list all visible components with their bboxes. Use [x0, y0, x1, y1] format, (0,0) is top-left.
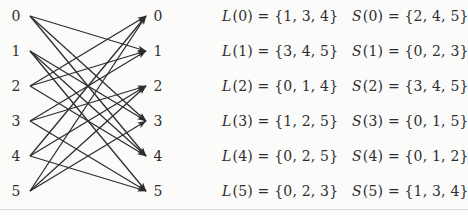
equation-body: (5) = {0, 2, 3}: [233, 183, 339, 199]
L-equation-row-0: L(0) = {1, 3, 4}: [222, 6, 338, 26]
edge-line: [30, 16, 146, 86]
L-equation-row-5: L(5) = {0, 2, 3}: [222, 181, 338, 201]
function-letter: S: [352, 78, 363, 94]
left-node-label-5: 5: [9, 181, 23, 201]
equation-body: (1) = {0, 2, 3}: [363, 43, 468, 59]
equation-body: (4) = {0, 1, 2}: [363, 148, 468, 164]
left-node-label-2: 2: [9, 76, 23, 96]
equation-body: (3) = {0, 1, 5}: [363, 113, 468, 129]
equation-body: (3) = {1, 2, 5}: [233, 113, 339, 129]
equation-body: (2) = {3, 4, 5}: [363, 78, 468, 94]
function-letter: L: [222, 43, 233, 59]
equation-body: (2) = {0, 1, 4}: [233, 78, 339, 94]
L-equation-row-1: L(1) = {3, 4, 5}: [222, 41, 338, 61]
right-node-label-4: 4: [151, 146, 165, 166]
S-equation-row-3: S(3) = {0, 1, 5}: [352, 111, 468, 131]
function-letter: L: [222, 78, 233, 94]
edge-line: [30, 16, 146, 51]
S-equation-row-1: S(1) = {0, 2, 3}: [352, 41, 468, 61]
edge-line: [30, 16, 146, 191]
left-node-label-1: 1: [9, 41, 23, 61]
edge-line: [30, 86, 146, 191]
L-equation-row-2: L(2) = {0, 1, 4}: [222, 76, 338, 96]
right-node-label-0: 0: [151, 6, 165, 26]
L-equation-row-4: L(4) = {0, 2, 5}: [222, 146, 338, 166]
L-equation-row-3: L(3) = {1, 2, 5}: [222, 111, 338, 131]
equation-body: (5) = {1, 3, 4}: [363, 183, 468, 199]
equation-body: (1) = {3, 4, 5}: [233, 43, 339, 59]
function-letter: S: [352, 113, 363, 129]
equation-body: (4) = {0, 2, 5}: [233, 148, 339, 164]
right-node-label-3: 3: [151, 111, 165, 131]
left-node-label-4: 4: [9, 146, 23, 166]
S-equation-row-0: S(0) = {2, 4, 5}: [352, 6, 468, 26]
equation-body: (0) = {2, 4, 5}: [363, 8, 468, 24]
edge-lines-group: [30, 16, 146, 191]
function-letter: L: [222, 183, 233, 199]
function-letter: S: [352, 148, 363, 164]
function-letter: S: [352, 183, 363, 199]
left-node-label-0: 0: [9, 6, 23, 26]
edge-line: [30, 156, 146, 191]
right-node-label-1: 1: [151, 41, 165, 61]
right-node-label-2: 2: [151, 76, 165, 96]
function-letter: S: [352, 8, 363, 24]
page-rule: [0, 209, 468, 210]
bipartite-graph-figure: 0 1 2 3 4 5 0 1 2 3 4 5 L(0) = {1, 3, 4}…: [0, 0, 468, 215]
S-equation-row-4: S(4) = {0, 1, 2}: [352, 146, 468, 166]
function-letter: L: [222, 148, 233, 164]
left-node-label-3: 3: [9, 111, 23, 131]
edge-line: [30, 51, 146, 86]
right-node-label-5: 5: [151, 181, 165, 201]
S-equation-row-2: S(2) = {3, 4, 5}: [352, 76, 468, 96]
function-letter: L: [222, 8, 233, 24]
S-equation-row-5: S(5) = {1, 3, 4}: [352, 181, 468, 201]
equation-body: (0) = {1, 3, 4}: [233, 8, 339, 24]
function-letter: S: [352, 43, 363, 59]
function-letter: L: [222, 113, 233, 129]
